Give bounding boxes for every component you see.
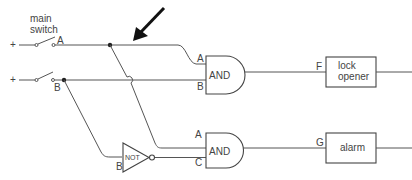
- switch-b-contact-1: [35, 79, 38, 82]
- lock-opener-label-line2: opener: [338, 71, 370, 82]
- plus-top: +: [10, 39, 16, 50]
- main-switch-label-line2: switch: [30, 24, 58, 35]
- and-gate-bottom-label: AND: [209, 146, 230, 157]
- lock-opener-label-line1: lock: [338, 60, 357, 71]
- alarm-label: alarm: [340, 142, 365, 153]
- not-gate: NOT: [123, 143, 155, 172]
- and-bottom-input-c-label: C: [195, 157, 202, 168]
- alarm-box: alarm: [326, 133, 376, 163]
- and-gate-top-label: AND: [209, 70, 230, 81]
- not-gate-label: NOT: [125, 154, 141, 161]
- lock-opener-box: lock opener: [326, 57, 376, 87]
- and-top-input-a-label: A: [197, 53, 204, 64]
- logic-circuit-diagram: main switch + A + B AND A B F lock opene…: [0, 0, 412, 180]
- and-gate-top: AND: [206, 56, 245, 94]
- switch-b-lever[interactable]: [38, 72, 53, 79]
- switch-a-lever[interactable]: [38, 37, 55, 44]
- input-a-label: A: [57, 35, 64, 46]
- arrow-pointer-icon: [133, 8, 164, 41]
- and-top-input-b-label: B: [197, 81, 204, 92]
- output-g-label: G: [316, 137, 324, 148]
- switch-a-contact-2: [52, 44, 55, 47]
- input-b-label: B: [54, 82, 61, 93]
- output-f-label: F: [316, 61, 322, 72]
- not-input-b-label: B: [116, 161, 123, 172]
- wire-a-to-and-top: [55, 45, 206, 64]
- switch-a-contact-1: [35, 44, 38, 47]
- and-bottom-input-a-label: A: [195, 129, 202, 140]
- wire-b-to-not: [64, 80, 122, 157]
- and-gate-bottom: AND: [206, 133, 244, 168]
- main-switch-label-line1: main: [30, 13, 52, 24]
- plus-bottom: +: [10, 74, 16, 85]
